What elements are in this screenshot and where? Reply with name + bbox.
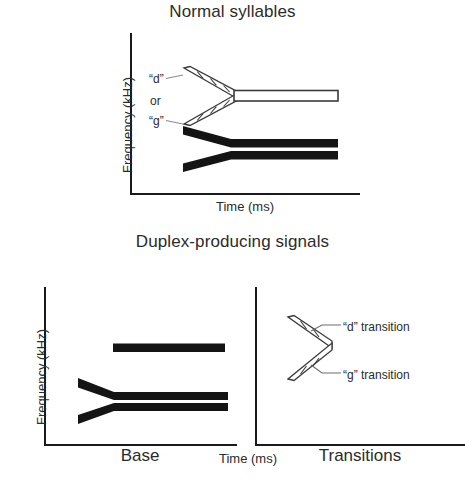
top-d-leader-line [166,75,183,79]
base-f1-formant [78,403,228,424]
top-f1-formant [183,151,338,172]
top-g-leader-line [166,121,183,125]
g-transition-leader-line [311,365,341,373]
figure-container: Normal syllables Frequency (kHz) Time (m… [0,0,465,491]
base-f3-steady-state-bar [113,344,225,353]
top-f3-transition-wedge [184,67,238,126]
top-f2-formant [183,126,338,148]
base-f2-formant [78,378,228,400]
top-f3-steady-state-bar [234,91,338,102]
spectrogram-graphics-layer [0,0,465,491]
